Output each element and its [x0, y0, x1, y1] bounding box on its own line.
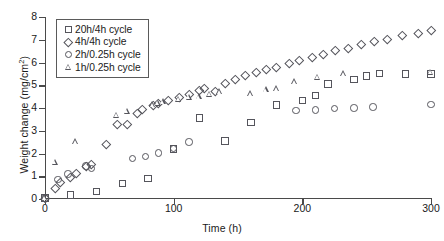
data-point: [170, 145, 177, 152]
data-point: [369, 103, 376, 110]
data-point: [82, 161, 91, 170]
data-point: [119, 180, 126, 187]
triangle-marker-icon: [62, 61, 75, 73]
data-point: [357, 40, 366, 49]
data-point: [206, 91, 212, 97]
x-tick-label-0: 0: [25, 203, 65, 214]
data-point: [102, 139, 111, 148]
data-point: [66, 173, 75, 182]
data-point: [402, 70, 409, 77]
x-tick-label-200: 200: [282, 203, 322, 214]
data-point: [154, 99, 163, 108]
y-tick-label-0: 0: [24, 193, 37, 204]
data-point: [71, 169, 80, 178]
data-point: [160, 98, 166, 104]
data-point: [72, 138, 78, 144]
data-point: [263, 86, 269, 92]
data-point: [138, 104, 147, 113]
data-point: [370, 37, 379, 46]
data-point: [144, 175, 151, 182]
data-point: [124, 108, 130, 114]
circle-marker-icon: [62, 48, 75, 60]
data-point: [308, 53, 317, 62]
data-point: [363, 72, 370, 79]
data-point: [247, 119, 254, 126]
data-point: [186, 94, 192, 100]
data-point: [220, 78, 229, 87]
data-point: [383, 35, 392, 44]
data-point: [196, 93, 202, 99]
data-point: [350, 104, 357, 111]
y-tick-label-5: 5: [24, 79, 37, 90]
data-point: [52, 159, 58, 165]
data-point: [312, 106, 319, 113]
data-point: [292, 107, 299, 114]
legend-item-label: 4h/4h cycle: [75, 36, 127, 47]
y-tick-label-3: 3: [24, 125, 37, 136]
data-point: [312, 92, 319, 99]
data-point: [426, 26, 435, 35]
data-point: [133, 109, 142, 118]
square-marker-icon: [62, 23, 75, 35]
data-point: [149, 101, 155, 107]
data-point: [231, 74, 240, 83]
data-point: [155, 149, 162, 156]
data-point: [427, 70, 434, 77]
y-tick-label-7: 7: [24, 34, 37, 45]
data-point: [221, 137, 228, 144]
data-point: [112, 120, 121, 129]
data-point: [196, 114, 203, 121]
data-point: [170, 145, 177, 152]
data-point: [93, 188, 100, 195]
data-point: [247, 90, 253, 96]
data-point: [175, 96, 181, 102]
x-axis-label: Time (h): [0, 222, 444, 234]
data-point: [210, 87, 219, 96]
scatter-chart-figure: Weight change (mg/cm2) Time (h) 01234567…: [0, 0, 444, 241]
data-point: [273, 101, 280, 108]
data-point: [262, 64, 271, 73]
data-point: [200, 83, 209, 92]
data-point: [331, 46, 340, 55]
data-point: [64, 170, 71, 177]
legend-item-label: 2h/0.25h cycle: [75, 49, 141, 60]
chart-legend: 20h/4h cycle4h/4h cycle2h/0.25h cycle1h/…: [56, 19, 149, 78]
legend-item-square: 20h/4h cycle: [62, 23, 141, 36]
data-point: [241, 70, 250, 79]
data-point: [413, 28, 422, 37]
data-point: [123, 119, 132, 128]
data-point: [299, 97, 306, 104]
data-point: [88, 165, 95, 172]
y-tick-label-1: 1: [24, 170, 37, 181]
data-point: [344, 44, 353, 53]
data-point: [318, 50, 327, 59]
data-point: [314, 74, 320, 80]
data-point: [56, 178, 65, 187]
data-point: [174, 93, 183, 102]
data-point: [155, 100, 161, 106]
data-point: [273, 85, 279, 91]
data-point: [148, 101, 157, 110]
legend-item-label: 20h/4h cycle: [75, 24, 132, 35]
data-point: [427, 101, 434, 108]
data-point: [216, 88, 222, 94]
data-point: [285, 59, 294, 68]
data-point: [427, 69, 433, 75]
data-point: [164, 95, 173, 104]
data-point: [87, 160, 96, 169]
data-point: [291, 78, 297, 84]
data-point: [185, 138, 192, 145]
data-point: [350, 76, 357, 83]
x-tick-label-100: 100: [154, 203, 194, 214]
data-point: [324, 80, 331, 87]
x-tick-label-300: 300: [411, 203, 444, 214]
data-point: [54, 176, 61, 183]
legend-item-label: 1h/0.25h cycle: [75, 62, 141, 73]
data-point: [51, 184, 60, 193]
data-point: [331, 105, 338, 112]
y-tick-label-2: 2: [24, 148, 37, 159]
data-point: [142, 153, 149, 160]
data-point: [340, 70, 346, 76]
data-point: [184, 90, 193, 99]
legend-item-triangle: 1h/0.25h cycle: [62, 61, 141, 74]
